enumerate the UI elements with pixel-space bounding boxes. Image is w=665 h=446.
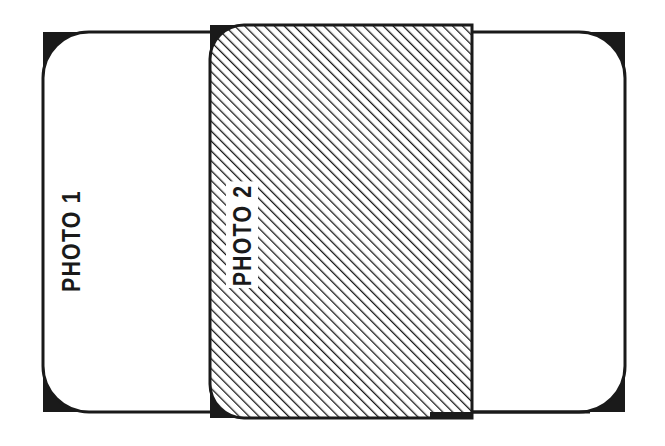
photo2-frame	[210, 25, 472, 418]
photo2-corner-fills	[210, 25, 472, 418]
photo-overlap-diagram	[0, 0, 665, 446]
photo1-bottom-edge-overlay	[430, 412, 590, 418]
diagram-canvas: PHOTO 1 PHOTO 2	[0, 0, 665, 446]
